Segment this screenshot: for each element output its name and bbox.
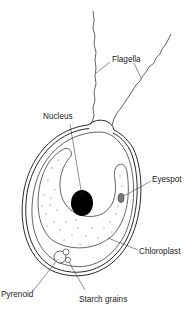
- label-flagella: Flagella: [112, 55, 141, 64]
- flagellum-right: [112, 34, 171, 125]
- eyespot: [118, 194, 124, 203]
- leader-flagella-right: [134, 63, 141, 78]
- label-chloroplast: Chloroplast: [139, 247, 181, 256]
- nucleus: [71, 190, 93, 216]
- leader-flagella-left: [96, 62, 110, 73]
- starch-grain: [63, 249, 69, 255]
- label-pyrenoid: Pyrenoid: [1, 290, 34, 299]
- label-nucleus: Nucleus: [43, 112, 73, 121]
- starch-grain: [65, 257, 70, 262]
- leader-chloroplast: [108, 238, 138, 250]
- flagellum-left: [90, 11, 96, 125]
- chlamydomonas-diagram: Flagella Nucleus Eyespot Chloroplast Pyr…: [0, 0, 193, 314]
- label-eyespot: Eyespot: [152, 175, 182, 184]
- leader-pyrenoid: [33, 259, 58, 291]
- label-starch-grains: Starch grains: [79, 295, 127, 304]
